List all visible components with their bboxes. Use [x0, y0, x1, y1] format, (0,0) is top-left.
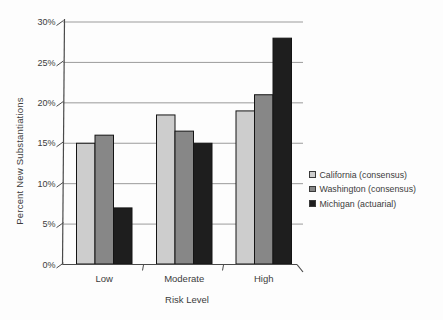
- x-axis-title: Risk Level: [165, 294, 209, 305]
- legend-swatch-washington: [309, 186, 316, 193]
- y-tick-label: 0%: [42, 260, 55, 270]
- legend-label-california: California (consensus): [320, 170, 408, 180]
- bar-low-0: [77, 143, 96, 264]
- bar-low-1: [95, 135, 114, 264]
- y-tick-label: 30%: [37, 17, 55, 27]
- y-axis-tick: [57, 61, 64, 66]
- legend-swatch-california: [309, 171, 316, 178]
- y-axis-title: Percent New Substantiations: [14, 97, 25, 224]
- y-axis-tick: [57, 182, 64, 187]
- legend-label-washington: Washington (consensus): [320, 184, 417, 194]
- legend-swatch-michigan: [309, 200, 316, 207]
- y-tick-label: 20%: [37, 98, 55, 108]
- legend-item-california: California (consensus): [309, 170, 416, 179]
- bar-moderate-2: [194, 143, 213, 264]
- y-tick-label: 10%: [37, 179, 55, 189]
- bar-high-2: [273, 38, 292, 264]
- y-tick-label: 15%: [37, 138, 55, 148]
- legend-item-michigan: Michigan (actuarial): [309, 199, 416, 208]
- bar-low-2: [114, 208, 133, 264]
- y-axis-tick: [57, 101, 64, 106]
- bar-chart: 0%5%10%15%20%25%30%LowModerateHigh Perce…: [0, 0, 443, 320]
- legend-item-washington: Washington (consensus): [309, 185, 416, 194]
- plot-svg: 0%5%10%15%20%25%30%LowModerateHigh: [0, 0, 443, 320]
- bar-moderate-0: [157, 115, 176, 264]
- y-tick-label: 25%: [37, 58, 55, 68]
- bar-high-1: [255, 95, 274, 264]
- legend-label-michigan: Michigan (actuarial): [320, 199, 397, 209]
- x-axis-end-tick: [297, 265, 303, 273]
- x-axis-tick: [143, 265, 144, 271]
- x-category-label-low: Low: [95, 273, 113, 284]
- y-axis-tick: [57, 142, 64, 147]
- bar-high-0: [236, 111, 255, 264]
- bar-moderate-1: [175, 131, 194, 264]
- x-category-label-moderate: Moderate: [164, 273, 204, 284]
- legend: California (consensus) Washington (conse…: [309, 170, 416, 208]
- x-axis-tick: [223, 265, 224, 271]
- x-category-label-high: High: [254, 273, 274, 284]
- y-axis-tick: [57, 21, 64, 26]
- y-tick-label: 5%: [42, 219, 55, 229]
